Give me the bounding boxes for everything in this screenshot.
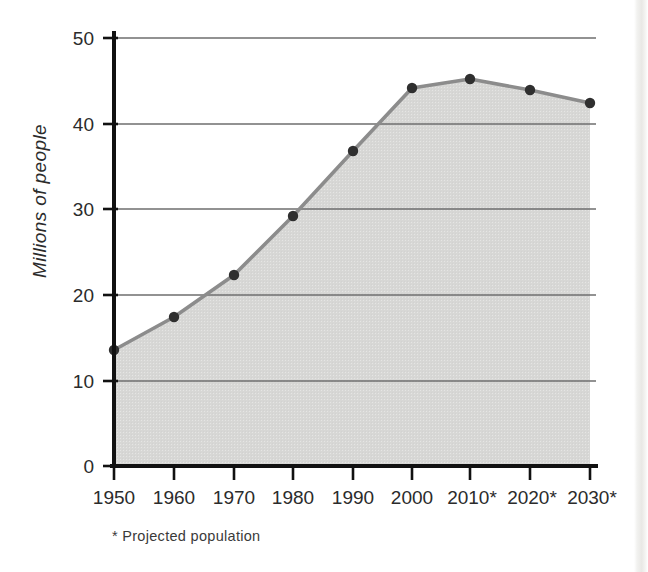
x-tick-label: 1960 xyxy=(153,487,195,508)
y-tick-label: 40 xyxy=(73,114,94,135)
data-point xyxy=(288,211,298,221)
population-area-chart-figure: Millions of people xyxy=(0,0,648,572)
data-point xyxy=(465,74,475,84)
y-tick-label: 30 xyxy=(73,199,94,220)
x-tick-label: 2030* xyxy=(567,487,617,508)
y-tick-label: 50 xyxy=(73,28,94,49)
y-tick-label: 20 xyxy=(73,285,94,306)
data-point xyxy=(525,85,535,95)
data-point xyxy=(348,146,358,156)
data-point xyxy=(229,270,239,280)
x-tick-label: 1980 xyxy=(272,487,314,508)
y-tick-label: 0 xyxy=(83,456,94,477)
x-tick-label: 1950 xyxy=(93,487,135,508)
x-tick-label: 2000 xyxy=(391,487,433,508)
x-tick-label: 2020* xyxy=(507,487,557,508)
data-point xyxy=(585,98,595,108)
y-tick-label: 10 xyxy=(73,371,94,392)
x-axis-ticks xyxy=(114,466,590,480)
data-point xyxy=(407,83,417,93)
chart-plot-area: 50 40 30 20 10 0 1950 1960 1970 1980 199… xyxy=(0,0,648,520)
area-fill-texture xyxy=(114,60,594,470)
footnote-projected-population: * Projected population xyxy=(112,528,260,544)
x-tick-label: 1990 xyxy=(332,487,374,508)
data-point xyxy=(169,312,179,322)
x-tick-label: 1970 xyxy=(213,487,255,508)
x-tick-label: 2010* xyxy=(447,487,497,508)
